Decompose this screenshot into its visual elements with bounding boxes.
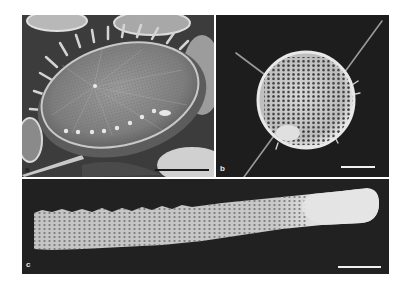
- panel-label: b: [220, 165, 225, 173]
- diatom-image: [22, 15, 214, 177]
- figure: a: [0, 0, 409, 290]
- radiolarian-image: [216, 15, 389, 177]
- scale-bar: [155, 169, 209, 171]
- scale-bar: [338, 266, 381, 268]
- panel-b-micrograph: b: [216, 15, 389, 177]
- panel-label: c: [26, 261, 30, 269]
- panel-a-micrograph: a: [22, 15, 214, 177]
- tubular-skeleton-image: [22, 179, 389, 274]
- panel-c-micrograph: c: [22, 179, 389, 274]
- scale-bar: [341, 166, 375, 168]
- panel-label: a: [25, 166, 29, 174]
